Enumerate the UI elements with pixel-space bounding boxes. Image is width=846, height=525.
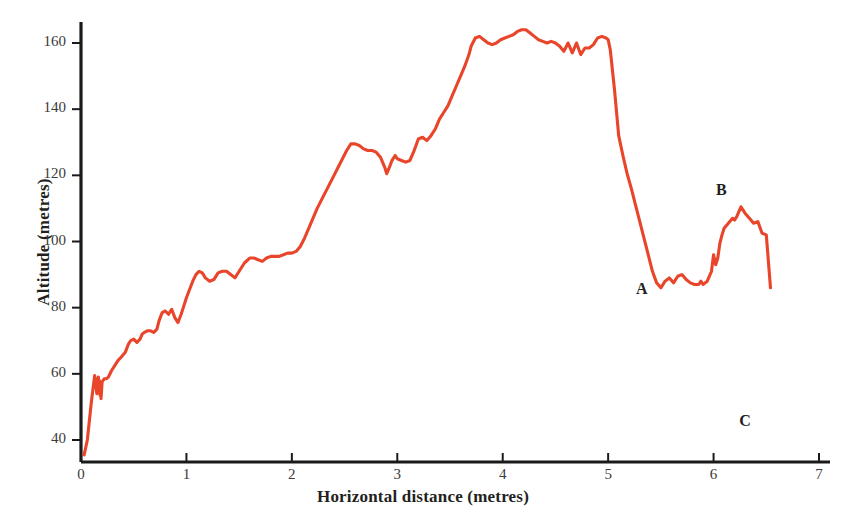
y-tick-label: 160 [26, 33, 66, 50]
altitude-profile-line [84, 30, 770, 455]
x-tick-label: 0 [66, 466, 96, 483]
y-tick-label: 100 [26, 232, 66, 249]
x-tick-label: 2 [277, 466, 307, 483]
x-axis-title: Horizontal distance (metres) [0, 487, 846, 507]
x-tick-label: 5 [593, 466, 623, 483]
x-tick-label: 6 [699, 466, 729, 483]
plot-area [0, 0, 846, 525]
y-tick-label: 140 [26, 99, 66, 116]
y-tick-label: 80 [26, 298, 66, 315]
x-tick-label: 4 [488, 466, 518, 483]
annotation-label-c: C [739, 412, 751, 430]
altitude-profile-chart: Horizontal distance (metres) Altitude (m… [0, 0, 846, 525]
y-tick-label: 120 [26, 165, 66, 182]
annotation-label-a: A [636, 280, 648, 298]
x-tick-label: 1 [171, 466, 201, 483]
annotation-label-b: B [716, 181, 727, 199]
x-tick-label: 7 [804, 466, 834, 483]
y-tick-label: 40 [26, 430, 66, 447]
y-tick-label: 60 [26, 364, 66, 381]
x-tick-label: 3 [382, 466, 412, 483]
